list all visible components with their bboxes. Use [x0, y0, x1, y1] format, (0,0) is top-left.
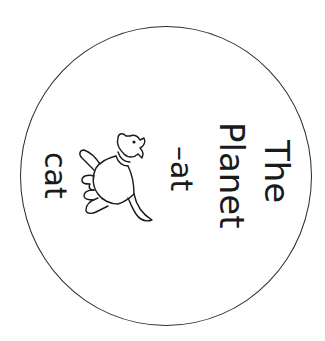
title-the: The — [260, 140, 294, 203]
word-family-suffix: –at — [166, 146, 196, 191]
example-word: cat — [40, 152, 70, 199]
cat-icon — [78, 128, 154, 224]
title-planet: Planet — [215, 122, 249, 229]
